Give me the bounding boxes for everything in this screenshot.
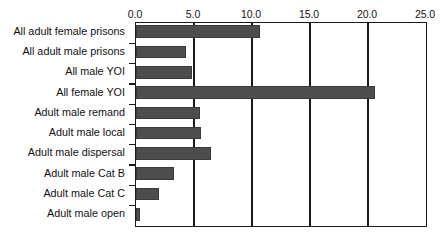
y-tick-mark (129, 164, 136, 165)
y-tick-label: All male YOI (65, 65, 125, 77)
y-tick-mark (129, 63, 136, 64)
y-tick-mark (129, 205, 136, 206)
y-tick-label: Adult male local (49, 126, 125, 138)
y-tick-label: Adult male Cat B (44, 167, 125, 179)
y-tick-mark (129, 185, 136, 186)
bars-layer (136, 23, 426, 226)
x-axis-tick-labels: 0.05.010.015.020.025.0 (0, 8, 442, 21)
x-tick-label: 15.0 (299, 8, 319, 21)
y-tick-mark (129, 144, 136, 145)
x-tick-label: 5.0 (186, 8, 200, 21)
bar (136, 127, 201, 140)
bar (136, 86, 375, 99)
x-tick-label: 20.0 (357, 8, 377, 21)
y-tick-label: All female YOI (56, 86, 125, 98)
y-tick-mark (129, 43, 136, 44)
x-tick-label: 0.0 (128, 8, 142, 21)
y-tick-label: Adult male remand (34, 106, 125, 118)
bar (136, 107, 200, 120)
x-tick-label: 25.0 (415, 8, 435, 21)
y-tick-mark (129, 104, 136, 105)
y-tick-label: Adult male open (47, 207, 125, 219)
bar (136, 46, 186, 59)
bar (136, 188, 159, 201)
bar (136, 25, 260, 38)
x-tick-label: 10.0 (241, 8, 261, 21)
plot-area (135, 22, 427, 227)
bar (136, 208, 140, 221)
y-tick-label: Adult male Cat C (43, 187, 125, 199)
bar (136, 147, 211, 160)
y-tick-mark (129, 124, 136, 125)
bar-chart: 0.05.010.015.020.025.0 All adult female … (0, 0, 442, 246)
y-tick-label: All adult female prisons (13, 25, 125, 37)
bar (136, 66, 192, 79)
bar (136, 167, 174, 180)
y-tick-label: All adult male prisons (22, 45, 125, 57)
y-tick-label: Adult male dispersal (28, 146, 125, 158)
y-axis-category-labels: All adult female prisonsAll adult male p… (0, 22, 131, 225)
y-tick-mark (129, 83, 136, 84)
